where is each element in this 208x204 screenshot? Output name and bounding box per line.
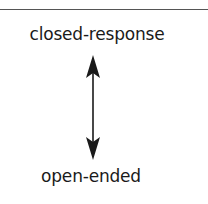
double-headed-arrow-icon xyxy=(80,50,106,165)
open-ended-label: open-ended xyxy=(0,166,195,186)
top-divider-line xyxy=(0,9,208,10)
closed-response-label: closed-response xyxy=(0,24,201,44)
